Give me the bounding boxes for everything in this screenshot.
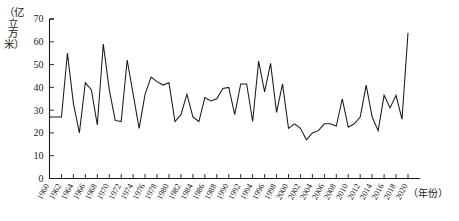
data-series-line bbox=[50, 33, 409, 140]
line-chart-plot: 010203040506070 196019621964196619681970… bbox=[0, 0, 459, 221]
y-tick-label: 50 bbox=[34, 59, 44, 70]
y-tick-label: 30 bbox=[34, 105, 44, 116]
y-tick-label: 20 bbox=[34, 127, 44, 138]
y-tick-label: 40 bbox=[34, 82, 44, 93]
y-tick-label: 10 bbox=[34, 150, 44, 161]
chart-axes bbox=[50, 19, 421, 179]
y-axis-ticks: 010203040506070 bbox=[34, 13, 55, 184]
x-axis-unit-label: （年份） bbox=[408, 185, 448, 200]
x-axis-ticks bbox=[50, 174, 409, 179]
chart-container: （亿立方米） 010203040506070 19601962196419661… bbox=[0, 0, 459, 221]
x-axis-tick-labels: 1960196219641966196819701972197419761978… bbox=[35, 181, 409, 201]
y-tick-label: 70 bbox=[34, 13, 44, 24]
y-tick-label: 60 bbox=[34, 36, 44, 47]
